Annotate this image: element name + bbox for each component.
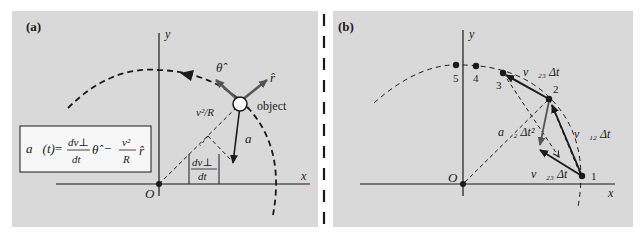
object-marker (233, 97, 247, 111)
tangential-numerator: dv⊥ (192, 156, 213, 168)
y-axis-label: y (164, 27, 171, 41)
panel-b: (b) x y O 1 2 3 4 5 v⃗₂₃ Δt v⃗₁₂ Δt (333, 11, 633, 227)
tangential-denominator: dt (198, 170, 208, 182)
formula-term1-numerator: dv⊥ (68, 136, 89, 148)
v23-top-label: v⃗₂₃ Δt (523, 65, 560, 79)
panel-a-label: (a) (26, 19, 41, 34)
panel-a: (a) x y O dv⊥ dt v²/R θ̂ r̂ a⃗ o (12, 11, 318, 227)
x-axis-label: x (607, 186, 614, 200)
v23-bottom-label: v⃗₂₃ Δt (531, 167, 568, 181)
point-2 (546, 96, 552, 102)
origin-label: O (448, 170, 458, 185)
formula-term1-denominator: dt (72, 153, 82, 165)
figure-canvas: (a) x y O dv⊥ dt v²/R θ̂ r̂ a⃗ o (0, 0, 643, 234)
acceleration-formula-box: a⃗(t) = dv⊥ dt θ̂ − v² R r̂ (20, 126, 151, 172)
point-3 (500, 70, 506, 76)
point-3-label: 3 (496, 79, 502, 91)
v12-label: v⃗₁₂ Δt (574, 127, 611, 141)
formula-equals: = (55, 141, 62, 156)
point-2-label: 2 (553, 83, 559, 95)
a2-label: a⃗₂ Δt² (498, 125, 535, 139)
y-axis-label: y (468, 27, 475, 41)
circular-motion-figure: (a) x y O dv⊥ dt v²/R θ̂ r̂ a⃗ o (0, 0, 643, 234)
panel-b-label: (b) (338, 19, 354, 34)
point-4-label: 4 (473, 72, 479, 84)
point-4 (473, 63, 479, 69)
origin-label: O (145, 186, 155, 201)
acceleration-label: a⃗ (245, 131, 262, 146)
point-1 (579, 173, 585, 179)
object-label: object (257, 99, 287, 113)
formula-lhs: a⃗(t) (26, 141, 55, 156)
centripetal-label: v²/R (196, 106, 214, 118)
panel-a-background (12, 11, 318, 227)
formula-term2-denominator: R (122, 153, 130, 165)
point-5-label: 5 (453, 72, 459, 84)
x-axis-label: x (300, 169, 307, 183)
formula-term2-numerator: v² (122, 136, 131, 148)
point-1-label: 1 (591, 170, 597, 182)
formula-minus: − (104, 141, 111, 156)
point-5 (453, 62, 459, 68)
panel-b-background (333, 11, 633, 227)
